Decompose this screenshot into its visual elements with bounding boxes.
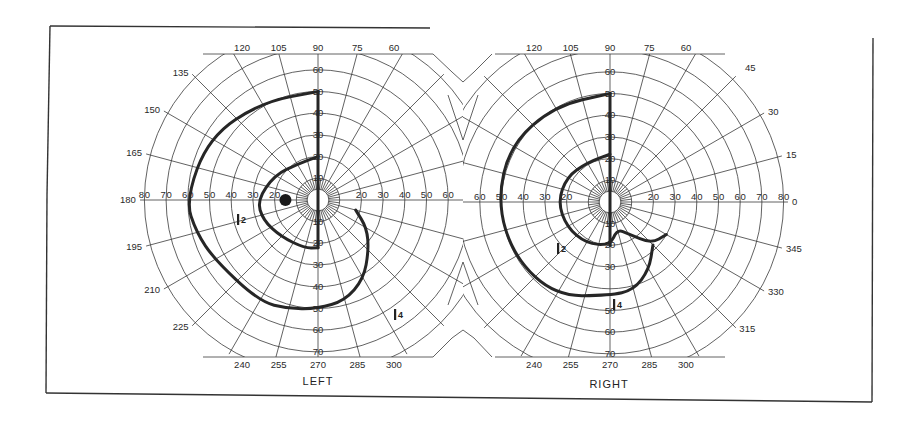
axis-label: 30 [768,106,779,117]
axis-label: 4 0 [691,191,702,202]
axis-label: 7 0 [160,189,171,200]
axis-label: 8 0 [778,191,789,202]
isopter-tag-i2: 2 [237,214,246,225]
axis-label: 45 [745,62,756,73]
svg-text:2: 2 [241,215,246,225]
axis-label: 60 [605,326,616,337]
axis-label: 270 [602,359,618,370]
axis-label: 285 [349,359,365,370]
axis-label: 6 0 [443,189,454,200]
axis-label: 4 0 [518,191,529,202]
axis-label: 300 [386,359,402,370]
axis-label: 240 [526,359,542,370]
axis-label: 0 [792,196,797,207]
axis-label: 60 [681,42,692,53]
axis-label: 60 [313,64,324,75]
axis-label: 195 [126,241,142,252]
axis-label: 240 [234,359,250,370]
axis-label: 70 [605,348,616,359]
axis-labels: 1201059075602402552702853001351501651801… [120,42,454,370]
right-eye-field: 1201059075604524025527028530030150345330… [432,24,802,380]
axis-label: 5 0 [204,189,215,200]
isopter-tag-i2: 2 [557,243,566,254]
axis-label: 30 [313,259,324,270]
axis-label: 120 [526,42,542,53]
isopter-tag-i4: 4 [613,299,622,310]
axis-label: 2 0 [648,191,659,202]
axis-label: 5 0 [713,191,724,202]
field-junction [433,54,492,357]
svg-text:4: 4 [617,300,622,310]
axis-label: 210 [144,284,160,295]
axis-label: 6 0 [735,191,746,202]
axis-label: 270 [310,359,326,370]
axis-label: 135 [173,67,189,78]
axis-label: 255 [271,359,287,370]
axis-label: 2 0 [269,189,280,200]
axis-label: 120 [234,42,250,53]
axis-label: 15 [786,149,797,160]
axis-label: 40 [313,281,324,292]
svg-text:2: 2 [561,244,566,254]
axis-label: 75 [352,42,363,53]
chart-frame [46,26,873,402]
axis-label: 105 [563,42,579,53]
axis-label: 225 [173,321,189,332]
isopter-tag-i4: 4 [394,309,403,320]
svg-text:4: 4 [398,310,403,320]
visual-field-chart: 1201059075602402552702853001351501651801… [0,0,915,428]
axis-label: 345 [786,243,802,254]
right-eye-label: RIGHT [589,378,628,390]
axis-label: 60 [605,66,616,77]
axis-label: 60 [313,324,324,335]
axis-label: 90 [313,42,324,53]
axis-label: 8 0 [139,189,150,200]
axis-label: 150 [144,104,160,115]
axis-label: 30 [605,261,616,272]
axis-label: 330 [768,286,784,297]
axis-label: 285 [641,359,657,370]
axis-label: 4 0 [226,189,237,200]
axis-label: 70 [313,346,324,357]
axis-label: 7 0 [756,191,767,202]
axis-label: 3 0 [247,189,258,200]
axis-label: 3 0 [669,191,680,202]
axis-label: 105 [271,42,287,53]
axis-label: 3 0 [539,191,550,202]
axis-label: 75 [644,42,655,53]
axis-label: 315 [739,323,755,334]
axis-label: 3 0 [377,189,388,200]
axis-label: 5 0 [421,189,432,200]
axis-label: 6 0 [474,191,485,202]
left-eye-field: 1201059075602402552702853001351501651801… [120,22,496,378]
axis-label: 300 [678,359,694,370]
axis-label: 255 [563,359,579,370]
blind-spot [279,194,291,206]
axis-label: 4 0 [399,189,410,200]
axis-label: 90 [605,42,616,53]
axis-label: 180 [120,194,136,205]
axis-label: 2 0 [356,189,367,200]
axis-label: 60 [389,42,400,53]
left-eye-label: LEFT [303,375,334,387]
axis-label: 165 [126,147,142,158]
